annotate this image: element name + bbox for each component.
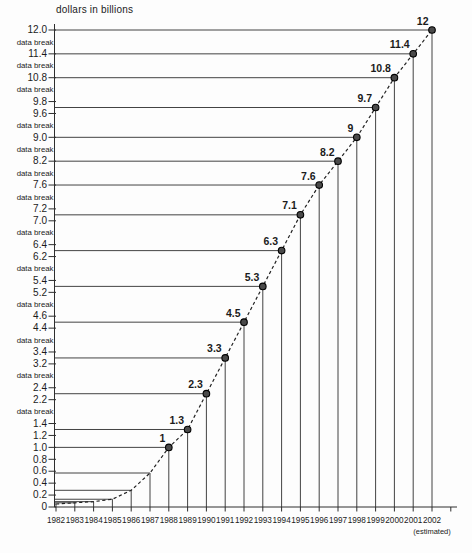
x-note-label: (estimated) (413, 527, 451, 536)
x-tick-label: 1991 (216, 516, 235, 525)
y-axis-data-break-label: data break (17, 61, 54, 70)
y-axis-tick-label: 0.4 (33, 477, 47, 488)
data-point-label: 5.3 (245, 271, 260, 283)
data-point-label: 10.8 (370, 62, 391, 74)
data-point-label: 3.3 (207, 342, 222, 354)
y-axis-tick-label: 3.2 (33, 358, 47, 369)
y-axis-tick-label: 9.8 (33, 96, 47, 107)
data-point-marker (410, 51, 417, 58)
data-point-label: 9 (347, 122, 353, 134)
x-tick-label: 2000 (385, 516, 404, 525)
x-tick-label: 1992 (235, 516, 254, 525)
x-tick-label: 1997 (329, 516, 348, 525)
y-axis-data-break-label: data break (17, 371, 54, 380)
data-point-marker (241, 319, 248, 326)
data-point-label: 8.2 (320, 146, 335, 158)
data-point-label: 7.6 (301, 170, 316, 182)
x-tick-label: 1990 (197, 516, 216, 525)
data-point-marker (166, 444, 173, 451)
data-point-label: 11.4 (390, 38, 410, 50)
data-point-marker (203, 390, 210, 397)
y-axis-tick-label: 0.2 (33, 489, 47, 500)
x-tick-label: 1984 (84, 516, 103, 525)
x-tick-label: 1998 (348, 516, 367, 525)
y-axis-data-break-label: data break (17, 300, 54, 309)
x-tick-label: 1994 (272, 516, 291, 525)
y-axis-tick-label: 6.4 (33, 239, 47, 250)
data-point-label: 7.1 (282, 199, 297, 211)
x-tick-label: 1995 (291, 516, 310, 525)
data-point-marker (222, 355, 229, 362)
y-axis-tick-label: 7.6 (33, 179, 47, 190)
x-tick-label: 1986 (122, 516, 141, 525)
y-axis-tick-label: 2.4 (33, 382, 47, 393)
y-axis-tick-label: 12.0 (28, 24, 48, 35)
x-tick-label: 1985 (103, 516, 122, 525)
data-point-marker (278, 247, 285, 254)
y-axis-data-break-label: data break (17, 264, 54, 273)
data-point-marker (316, 182, 323, 189)
x-tick-label: 1988 (160, 516, 179, 525)
y-axis-tick-label: 0.8 (33, 454, 47, 465)
y-axis-data-break-label: data break (17, 85, 54, 94)
y-axis-data-break-label: data break (17, 228, 54, 237)
y-axis-tick-label: 0.6 (33, 465, 47, 476)
y-axis-data-break-label: data break (17, 169, 54, 178)
y-axis-data-break-label: data break (17, 145, 54, 154)
data-point-marker (297, 212, 304, 219)
data-point-label: 4.5 (226, 307, 241, 319)
y-axis-tick-label: 7.0 (33, 215, 47, 226)
y-axis-tick-label: 5.2 (33, 287, 47, 298)
y-axis-tick-label: 1.2 (33, 430, 47, 441)
x-tick-label: 2001 (404, 516, 423, 525)
y-axis-tick-label: 9.6 (33, 108, 47, 119)
y-axis-tick-label: 5.4 (33, 275, 47, 286)
data-point-marker (260, 283, 267, 290)
data-point-marker (391, 74, 398, 81)
x-tick-label: 2002 (423, 516, 442, 525)
y-axis-tick-label: 8.2 (33, 155, 47, 166)
data-point-marker (354, 134, 361, 141)
y-axis-tick-label: 4.6 (33, 310, 47, 321)
x-tick-label: 1999 (366, 516, 385, 525)
data-point-label: 9.7 (357, 92, 372, 104)
y-axis-tick-label: 0 (41, 501, 47, 512)
y-axis-tick-label: 10.8 (28, 72, 48, 83)
y-axis-tick-label: 7.2 (33, 203, 47, 214)
data-point-marker (372, 104, 379, 111)
x-tick-label: 1989 (178, 516, 197, 525)
x-tick-label: 1983 (66, 516, 85, 525)
y-axis-tick-label: 6.2 (33, 251, 47, 262)
x-tick-label: 1993 (254, 516, 273, 525)
data-point-marker (335, 158, 342, 165)
y-axis-tick-label: 9.0 (33, 132, 47, 143)
x-tick-label: 1987 (141, 516, 160, 525)
data-point-label: 12 (417, 15, 429, 27)
data-point-label: 6.3 (263, 235, 278, 247)
data-point-label: 2.3 (188, 378, 203, 390)
figure: dollars in billions 12.0data break11.4da… (0, 0, 472, 553)
line-chart: 12.0data break11.4data break10.8data bre… (0, 0, 472, 553)
y-axis-data-break-label: data break (17, 38, 54, 47)
x-tick-label: 1982 (47, 516, 66, 525)
y-axis-tick-label: 11.4 (28, 48, 47, 59)
y-axis-data-break-label: data break (17, 121, 54, 130)
y-axis-tick-label: 3.4 (33, 346, 47, 357)
data-point-marker (429, 27, 436, 34)
y-axis-tick-label: 2.2 (33, 394, 47, 405)
data-point-label: 1.3 (169, 414, 184, 426)
y-axis-data-break-label: data break (17, 407, 54, 416)
y-axis-data-break-label: data break (17, 336, 54, 345)
y-axis-tick-label: 1.4 (33, 418, 47, 429)
x-tick-label: 1996 (310, 516, 329, 525)
y-axis-data-break-label: data break (17, 193, 54, 202)
data-point-label: 1 (159, 432, 165, 444)
y-axis-tick-label: 4.4 (33, 322, 47, 333)
data-point-marker (184, 426, 191, 433)
y-axis-tick-label: 1.0 (33, 442, 47, 453)
